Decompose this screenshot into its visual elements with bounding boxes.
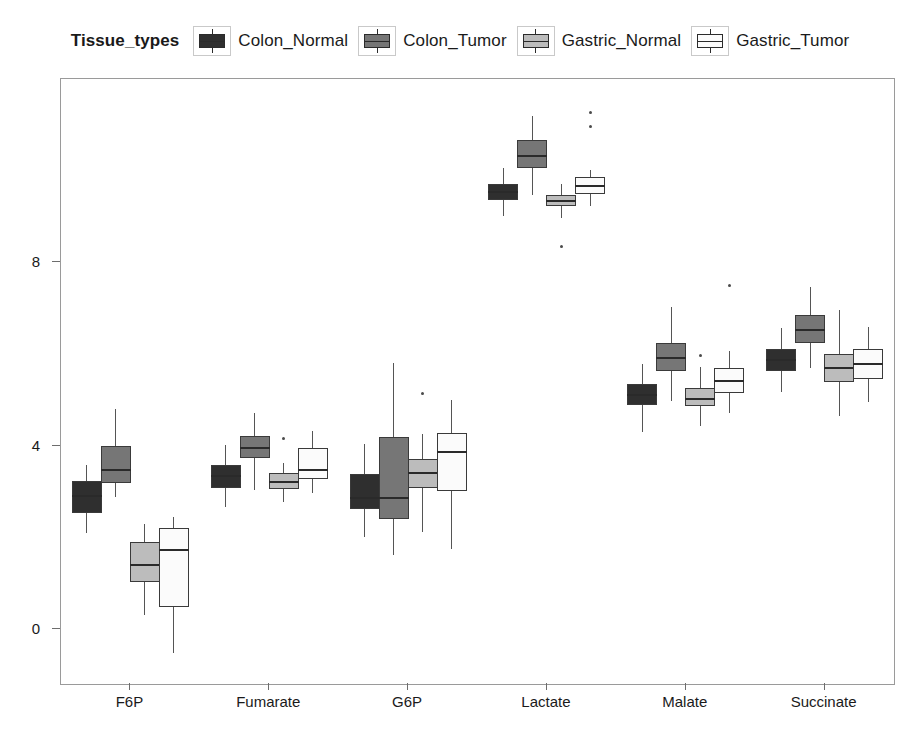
outlier-point [589,125,592,128]
box-body [379,437,409,519]
box-plot-g6p-colon-tumor [379,79,409,684]
legend-key-median [199,41,225,42]
box-body [159,528,189,607]
box-plot-g6p-colon-normal [350,79,380,684]
median-line [72,495,102,497]
y-axis-tick-label: 8 [0,253,40,270]
box-plot-succinate-gastric-normal [824,79,854,684]
legend-key-gastric-tumor [691,26,729,56]
median-line [685,398,715,400]
x-axis-tick-mark [129,683,130,690]
median-line [298,469,328,471]
box-plot-lactate-colon-tumor [517,79,547,684]
x-axis-tick-mark [407,683,408,690]
median-line [546,200,576,202]
median-line [240,447,270,449]
outlier-point [421,392,424,395]
x-axis-tick-label: G6P [392,693,422,710]
box-plot-lactate-gastric-normal [546,79,576,684]
legend-key-colon-normal [193,26,231,56]
box-body [130,542,160,582]
legend-title: Tissue_types [71,31,180,51]
median-line [824,367,854,369]
box-plot-fumarate-gastric-normal [269,79,299,684]
box-plot-succinate-colon-normal [766,79,796,684]
median-line [437,451,467,453]
median-line [488,191,518,193]
box-body [298,448,328,478]
median-line [130,564,160,566]
legend-entry-gastric-tumor[interactable]: Gastric_Tumor [691,26,849,56]
box-plot-lactate-colon-normal [488,79,518,684]
x-axis-tick-mark [268,683,269,690]
box-plot-malate-gastric-tumor [714,79,744,684]
legend-key-median [697,41,723,42]
median-line [656,357,686,359]
legend-entry-label: Colon_Normal [238,31,348,51]
box-plot-malate-colon-tumor [656,79,686,684]
y-axis-tick-mark [52,261,60,262]
box-plot-f6p-colon-normal [72,79,102,684]
legend-key-gastric-normal [517,26,555,56]
x-axis-tick-label: Malate [662,693,707,710]
box-plot-g6p-gastric-normal [408,79,438,684]
y-axis-tick-mark [52,445,60,446]
legend-entry-label: Colon_Tumor [403,31,506,51]
legend-key-median [364,41,390,42]
box-plot-fumarate-colon-normal [211,79,241,684]
median-line [408,472,438,474]
legend-key-colon-tumor [358,26,396,56]
box-body [72,481,102,513]
box-plot-g6p-gastric-tumor [437,79,467,684]
median-line [795,329,825,331]
box-plot-fumarate-colon-tumor [240,79,270,684]
median-line [379,497,409,499]
box-body [101,446,131,484]
y-axis-tick-label: 4 [0,436,40,453]
x-axis-tick-mark [685,683,686,690]
box-plot-fumarate-gastric-tumor [298,79,328,684]
median-line [211,475,241,477]
median-line [627,394,657,396]
x-axis-tick-mark [546,683,547,690]
median-line [350,497,380,499]
x-axis-tick-label: Lactate [521,693,570,710]
outlier-point [728,284,731,287]
box-plot-malate-gastric-normal [685,79,715,684]
box-plot-f6p-gastric-normal [130,79,160,684]
y-axis-tick-mark [52,628,60,629]
plot-area [61,79,894,684]
legend-entry-colon-normal[interactable]: Colon_Normal [193,26,348,56]
box-plot-malate-colon-normal [627,79,657,684]
outlier-point [589,111,592,114]
box-plot-f6p-gastric-tumor [159,79,189,684]
median-line [766,359,796,361]
outlier-point [282,437,285,440]
legend-key-median [523,41,549,42]
box-body [437,433,467,491]
median-line [269,481,299,483]
x-axis-tick-label: Succinate [791,693,857,710]
plot-frame [60,78,895,685]
x-axis-tick-label: Fumarate [236,693,300,710]
legend-entry-label: Gastric_Normal [562,31,681,51]
median-line [575,185,605,187]
median-line [159,549,189,551]
legend-entry-label: Gastric_Tumor [736,31,849,51]
box-plot-succinate-gastric-tumor [853,79,883,684]
x-axis-tick-mark [824,683,825,690]
box-plot-succinate-colon-tumor [795,79,825,684]
chart-legend: Tissue_types Colon_NormalColon_TumorGast… [0,26,920,56]
chart-page: Tissue_types Colon_NormalColon_TumorGast… [0,0,920,740]
legend-entry-colon-tumor[interactable]: Colon_Tumor [358,26,506,56]
box-plot-f6p-colon-tumor [101,79,131,684]
box-body [350,474,380,509]
outlier-point [560,245,563,248]
median-line [517,155,547,157]
legend-entry-gastric-normal[interactable]: Gastric_Normal [517,26,681,56]
x-axis-tick-label: F6P [116,693,144,710]
y-axis-tick-label: 0 [0,620,40,637]
median-line [853,363,883,365]
outlier-point [699,354,702,357]
median-line [101,469,131,471]
